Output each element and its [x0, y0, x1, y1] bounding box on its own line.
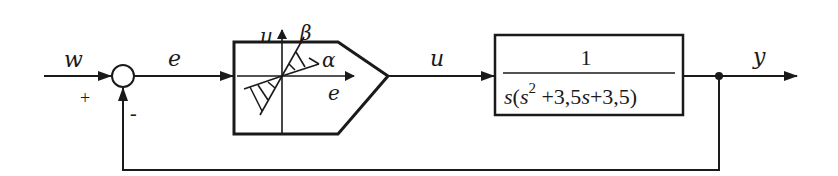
block-diagram: w + - e u e β α u 1 s(s2 +3,5s+3,5) y — [0, 0, 838, 176]
angle-label-alpha: α — [322, 48, 336, 72]
minus-sign: - — [130, 102, 137, 124]
nonlinear-block — [234, 42, 388, 134]
axis-label-u: u — [260, 24, 273, 48]
plus-sign: + — [80, 88, 90, 108]
summing-junction — [112, 65, 134, 87]
tf-numerator: 1 — [581, 45, 592, 70]
input-label-w: w — [64, 47, 83, 72]
error-label-e: e — [168, 46, 181, 71]
axis-label-e: e — [328, 81, 340, 105]
control-label-u: u — [430, 46, 444, 71]
tf-denominator: s(s2 +3,5s+3,5) — [504, 80, 637, 109]
output-label-y: y — [752, 44, 766, 69]
